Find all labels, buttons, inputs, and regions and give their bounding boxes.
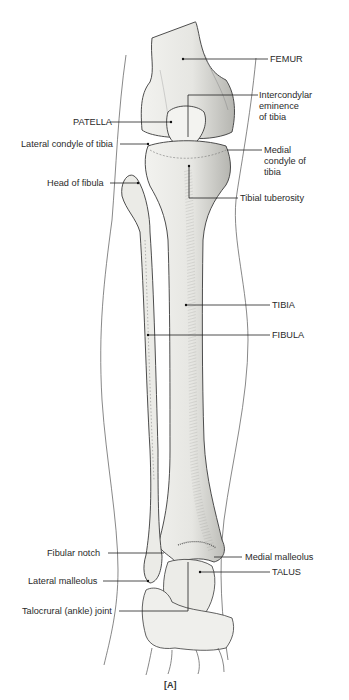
label-lateral-malleolus: Lateral malleolus xyxy=(28,576,97,587)
label-fibular-notch: Fibular notch xyxy=(47,548,100,559)
label-talocrural-joint: Talocrural (ankle) joint xyxy=(22,606,112,617)
label-talus: TALUS xyxy=(272,567,301,578)
label-medial-condyle-2: condyle of xyxy=(264,156,306,167)
label-intercondylar-2: eminence xyxy=(259,101,299,112)
label-patella: PATELLA xyxy=(73,117,112,128)
label-tibia: TIBIA xyxy=(272,300,295,311)
label-fibula: FIBULA xyxy=(272,330,304,341)
label-medial-malleolus: Medial malleolus xyxy=(245,552,313,563)
label-medial-condyle-1: Medial xyxy=(264,145,291,156)
label-medial-condyle-3: tibia xyxy=(264,167,281,178)
figure-caption: [A] xyxy=(164,680,177,690)
label-tibial-tuberosity: Tibial tuberosity xyxy=(240,193,304,204)
label-lateral-condyle: Lateral condyle of tibia xyxy=(21,139,113,150)
label-head-of-fibula: Head of fibula xyxy=(47,178,104,189)
label-femur: FEMUR xyxy=(270,54,303,65)
fibula-shape xyxy=(122,175,162,583)
label-intercondylar-3: of tibia xyxy=(259,112,286,123)
label-intercondylar-1: Intercondylar xyxy=(259,90,312,101)
